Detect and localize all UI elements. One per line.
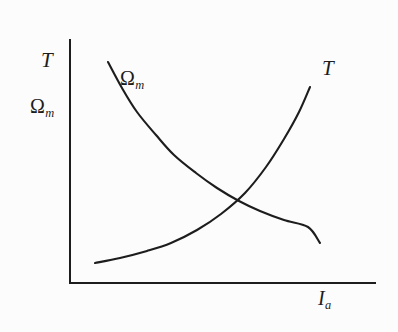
- y-axis-label-speed: Ωm: [30, 96, 54, 116]
- curve-label-torque: T: [322, 58, 334, 79]
- omega-curve-subscript: m: [135, 78, 144, 92]
- current-symbol: I: [318, 287, 325, 309]
- motor-characteristic-figure: T Ωm Ia Ωm T: [0, 0, 398, 332]
- omega-curve-symbol: Ω: [120, 67, 135, 89]
- curve-label-speed: Ωm: [120, 68, 144, 88]
- y-axis-label-torque: T: [41, 50, 53, 71]
- current-subscript: a: [325, 298, 331, 312]
- omega-subscript: m: [45, 106, 54, 120]
- omega-symbol: Ω: [30, 95, 45, 117]
- plot-canvas: [0, 0, 398, 332]
- x-axis-label-armature-current: Ia: [318, 288, 331, 308]
- torque-curve: [95, 87, 310, 263]
